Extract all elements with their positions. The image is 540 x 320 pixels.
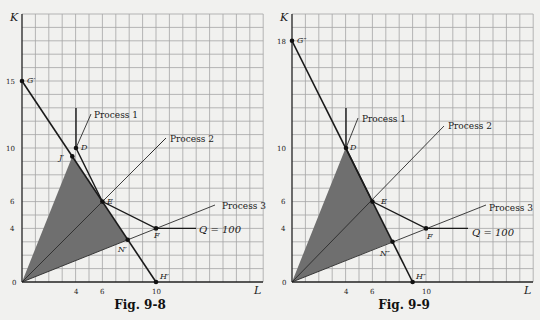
x-axis-label: L bbox=[253, 284, 261, 297]
point-g bbox=[20, 79, 25, 84]
shaded-region bbox=[22, 156, 128, 282]
point-h bbox=[410, 280, 415, 285]
figures-canvas: G′ D J′ E F N′ H′ Process 1 Process 2 Pr… bbox=[0, 0, 540, 320]
figure-caption: Fig. 9-9 bbox=[378, 298, 430, 312]
y-tick-10: 10 bbox=[277, 145, 286, 153]
x-tick-6: 6 bbox=[100, 288, 105, 296]
process-2-leader bbox=[150, 138, 166, 154]
y-tick-6: 6 bbox=[281, 198, 286, 206]
y-tick-0: 0 bbox=[282, 279, 286, 287]
y-tick-15: 15 bbox=[6, 78, 15, 86]
label-j: J′ bbox=[57, 153, 64, 162]
x-tick-10: 10 bbox=[152, 288, 161, 296]
y-tick-18: 18 bbox=[277, 38, 286, 46]
y-axis-label: K bbox=[279, 11, 289, 24]
label-g: G″ bbox=[297, 36, 306, 45]
x-tick-4: 4 bbox=[344, 288, 349, 296]
label-d: D bbox=[349, 143, 357, 152]
isoquant-label: Q = 100 bbox=[199, 224, 242, 235]
isoquant-label-text: Q = 100 bbox=[199, 224, 242, 235]
point-n bbox=[125, 237, 130, 242]
y-tick-10: 10 bbox=[6, 145, 15, 153]
process-3-label: Process 3 bbox=[222, 201, 266, 211]
point-n bbox=[390, 240, 395, 245]
process-2-label: Process 2 bbox=[448, 121, 492, 131]
point-e bbox=[100, 199, 105, 204]
y-axis-label: K bbox=[9, 11, 19, 24]
point-g bbox=[290, 39, 295, 44]
process-2-ray bbox=[22, 138, 166, 282]
point-j bbox=[70, 154, 75, 159]
x-axis-label: L bbox=[523, 284, 531, 297]
label-e: E bbox=[106, 197, 113, 206]
y-tick-4: 4 bbox=[281, 225, 286, 233]
process-1-label: Process 1 bbox=[94, 110, 138, 120]
label-h: H″ bbox=[415, 272, 426, 281]
point-d bbox=[74, 146, 79, 151]
label-n: N′ bbox=[117, 245, 127, 254]
figure-9-9: G″ D E F N″ H″ Process 1 Process 2 Proce… bbox=[277, 11, 533, 312]
y-tick-6: 6 bbox=[10, 198, 15, 206]
y-tick-0: 0 bbox=[12, 279, 16, 287]
y-tick-4: 4 bbox=[10, 225, 15, 233]
point-d bbox=[344, 146, 349, 151]
isoquant-label-text: Q = 100 bbox=[472, 227, 515, 238]
process-1-label: Process 1 bbox=[362, 114, 406, 124]
label-h: H′ bbox=[159, 272, 169, 281]
label-f: F bbox=[153, 231, 160, 240]
x-tick-6: 6 bbox=[370, 288, 375, 296]
label-d: D bbox=[80, 143, 88, 152]
point-f bbox=[424, 226, 429, 231]
process-2-label: Process 2 bbox=[170, 134, 214, 144]
process-2-ray bbox=[292, 126, 444, 282]
point-f bbox=[154, 226, 159, 231]
label-f: F bbox=[426, 232, 433, 241]
point-e bbox=[370, 199, 375, 204]
label-g: G′ bbox=[27, 76, 35, 85]
isoquant-label: Q = 100 bbox=[472, 227, 515, 238]
figure-9-8: G′ D J′ E F N′ H′ Process 1 Process 2 Pr… bbox=[6, 11, 266, 312]
label-e: E bbox=[380, 197, 387, 206]
point-h bbox=[154, 280, 159, 285]
figure-caption: Fig. 9-8 bbox=[114, 298, 166, 312]
process-3-label: Process 3 bbox=[489, 203, 533, 213]
x-tick-4: 4 bbox=[74, 288, 79, 296]
x-tick-10: 10 bbox=[422, 288, 431, 296]
label-n: N″ bbox=[379, 249, 390, 258]
